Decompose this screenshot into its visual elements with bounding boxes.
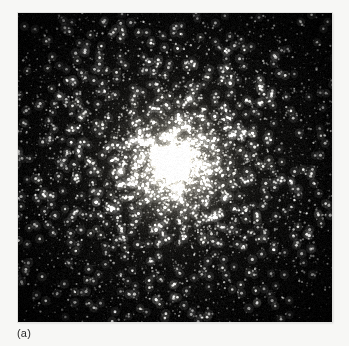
figure-caption-label: (a) xyxy=(17,327,31,340)
globular-cluster-image xyxy=(18,13,332,322)
figure-container: (a) xyxy=(0,0,349,346)
astronomical-photograph xyxy=(18,13,332,322)
